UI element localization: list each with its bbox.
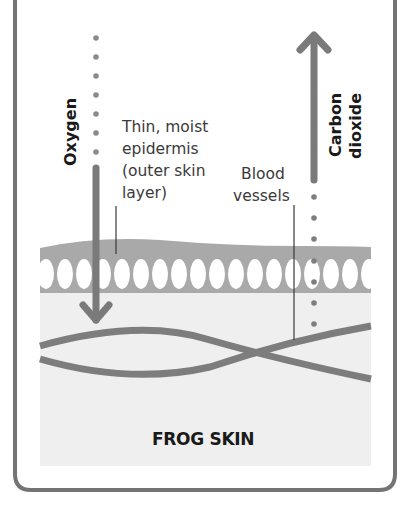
- oxygen-label: Oxygen: [62, 98, 80, 166]
- blood-vessels-label-line1: Blood: [241, 164, 285, 185]
- epidermis-label-line2: epidermis: [122, 139, 199, 160]
- epidermis-label-line1: Thin, moist: [122, 117, 208, 138]
- carbon-dioxide-label-line2: dioxide: [347, 93, 365, 159]
- diagram-title: FROG SKIN: [152, 429, 254, 449]
- blood-vessels-label-line2: vessels: [233, 186, 290, 207]
- epidermis-label-line4: layer): [122, 183, 167, 204]
- epidermis-label-line3: (outer skin: [122, 161, 205, 182]
- carbon-dioxide-label-line1: Carbon: [327, 93, 345, 157]
